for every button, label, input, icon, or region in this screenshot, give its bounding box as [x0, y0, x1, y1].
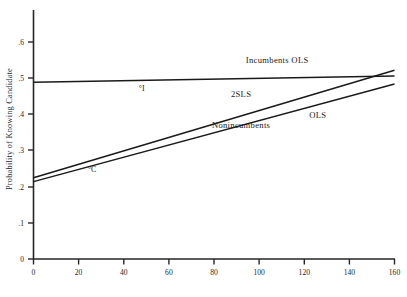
- x-tick-label: 140: [344, 268, 356, 277]
- y-tick-label: .6: [18, 38, 24, 47]
- x-tick-label: 0: [32, 268, 36, 277]
- y-tick-label: .3: [18, 146, 24, 155]
- y-tick-label: .2: [18, 183, 24, 192]
- chart-figure: .6 .5 .4 .3 .2 .1 0 0 20 40 60 80: [0, 0, 407, 297]
- x-axis-ticks: [34, 259, 395, 265]
- y-axis-ticks: [28, 42, 34, 259]
- x-tick-label: 160: [389, 268, 401, 277]
- x-axis-tick-labels: 0 20 40 60 80 100 120 140 160: [32, 268, 401, 277]
- series-label-2sls: 2SLS: [231, 89, 251, 99]
- y-tick-label: 0: [20, 255, 24, 264]
- y-tick-label: .1: [18, 219, 24, 228]
- x-tick-label: 40: [120, 268, 128, 277]
- y-tick-label: .4: [18, 110, 24, 119]
- y-axis-title: Probability of Knowing Candidate: [5, 68, 14, 190]
- x-tick-label: 120: [299, 268, 311, 277]
- series-label-nonincumbents: Nonincumbents: [212, 120, 271, 130]
- series-label-ols: OLS: [309, 110, 326, 120]
- incumbent-mean-point: °I: [139, 84, 145, 93]
- chart-canvas: .6 .5 .4 .3 .2 .1 0 0 20 40 60 80: [0, 0, 407, 297]
- series-label-incumbents-ols: Incumbents OLS: [246, 55, 309, 65]
- x-tick-label: 100: [253, 268, 265, 277]
- point-annotations: °I °C: [88, 84, 145, 174]
- x-tick-label: 60: [165, 268, 173, 277]
- x-tick-label: 20: [75, 268, 83, 277]
- series-line-incumbents-ols: [34, 76, 395, 82]
- y-tick-label: .5: [18, 74, 24, 83]
- y-axis-tick-labels: .6 .5 .4 .3 .2 .1 0: [18, 38, 24, 264]
- challenger-mean-point: °C: [88, 165, 97, 174]
- x-tick-label: 80: [210, 268, 218, 277]
